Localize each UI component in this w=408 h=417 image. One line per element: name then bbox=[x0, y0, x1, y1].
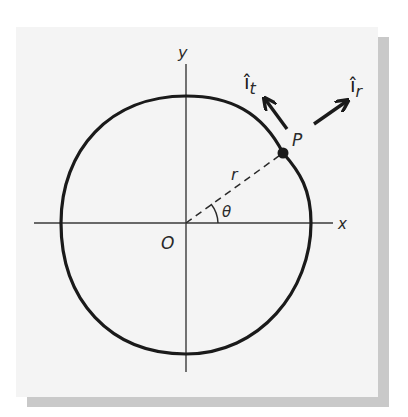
point-p-label: P bbox=[292, 130, 303, 150]
radial-vector-subscript: r bbox=[356, 82, 364, 101]
radius-label: r bbox=[231, 165, 239, 184]
x-axis-label: x bbox=[337, 215, 347, 233]
radius-line bbox=[186, 153, 283, 223]
origin-label: O bbox=[161, 233, 174, 253]
y-axis-label: y bbox=[177, 43, 188, 62]
tangential-vector-subscript: t bbox=[250, 79, 257, 98]
tangential-unit-vector-arrow bbox=[265, 99, 287, 129]
angle-theta-label: θ bbox=[222, 203, 231, 221]
point-p bbox=[278, 148, 289, 159]
radial-unit-vector-arrow bbox=[314, 101, 347, 124]
polar-coordinates-diagram: y x O P r θ ît îr bbox=[0, 0, 408, 417]
radial-vector-label: îr bbox=[349, 73, 364, 101]
tangential-vector-label: ît bbox=[243, 70, 257, 98]
angle-arc bbox=[211, 204, 218, 223]
